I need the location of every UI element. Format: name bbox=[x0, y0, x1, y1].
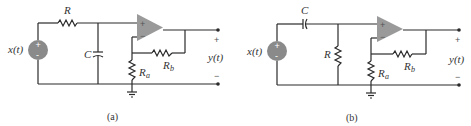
circuit-a: + - x(t) R C + − R b R a bbox=[7, 4, 224, 123]
circuit-b: + - x(t) C R + − R b R a bbox=[246, 4, 465, 124]
output-minus: − bbox=[214, 71, 219, 81]
rb-label: R bbox=[403, 60, 411, 72]
opamp-minus: − bbox=[380, 32, 385, 42]
resistor-icon bbox=[335, 46, 341, 66]
source-minus: - bbox=[275, 51, 278, 61]
output-minus: − bbox=[455, 72, 460, 82]
resistor-icon bbox=[152, 50, 172, 56]
resistor-icon bbox=[129, 60, 135, 80]
resistor-icon bbox=[368, 61, 374, 81]
source-plus: + bbox=[36, 40, 41, 50]
input-label: x(t) bbox=[246, 45, 263, 58]
resistor-icon bbox=[393, 51, 412, 57]
svg-text:b: b bbox=[170, 64, 174, 73]
rb-label: R bbox=[162, 59, 170, 71]
shunt-element-label: C bbox=[84, 48, 92, 60]
series-element-label: C bbox=[301, 4, 309, 16]
ra-label: R bbox=[138, 66, 146, 78]
output-label: y(t) bbox=[448, 53, 465, 66]
ground-icon bbox=[366, 93, 376, 98]
ground-icon bbox=[127, 92, 137, 97]
svg-text:a: a bbox=[146, 71, 150, 80]
ra-label: R bbox=[377, 67, 385, 79]
circuit-figure: + - x(t) R C + − R b R a bbox=[0, 0, 471, 126]
caption-a: (a) bbox=[107, 111, 118, 123]
output-plus: + bbox=[455, 35, 460, 45]
caption-b: (b) bbox=[346, 112, 358, 124]
output-label: y(t) bbox=[207, 51, 224, 64]
resistor-icon bbox=[58, 20, 77, 26]
opamp-minus: − bbox=[140, 31, 145, 41]
series-element-label: R bbox=[63, 4, 71, 16]
opamp-plus: + bbox=[140, 19, 145, 29]
shunt-element-label: R bbox=[323, 48, 331, 60]
input-label: x(t) bbox=[7, 43, 24, 56]
svg-text:a: a bbox=[385, 72, 389, 81]
source-minus: - bbox=[36, 50, 39, 60]
source-plus: + bbox=[275, 41, 280, 51]
output-plus: + bbox=[214, 35, 219, 45]
svg-text:b: b bbox=[411, 65, 415, 74]
opamp-plus: + bbox=[380, 20, 385, 30]
